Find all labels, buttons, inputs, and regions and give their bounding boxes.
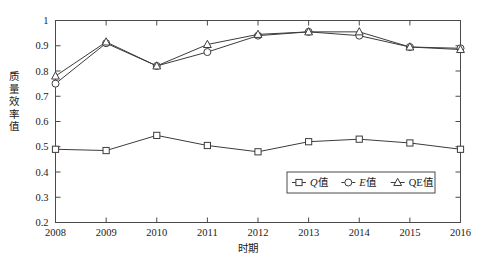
x-tick-label: 2015 [399, 227, 420, 238]
chart-legend[interactable]: Q值E值QE值 [287, 172, 435, 193]
y-tick-label: 0.8 [35, 66, 48, 77]
y-tick-label: 0.9 [35, 40, 48, 51]
data-point-marker [52, 146, 58, 152]
x-tick-label: 2016 [450, 227, 471, 238]
x-axis-title: 时期 [238, 242, 258, 254]
x-tick-label: 2013 [298, 227, 319, 238]
x-tick-label: 2009 [96, 227, 117, 238]
y-tick-label: 0.4 [35, 167, 49, 178]
data-point-marker [407, 140, 413, 146]
data-point-marker [103, 147, 109, 153]
y-axis-tick-labels: 0.20.30.40.50.60.70.80.91 [35, 15, 49, 228]
data-point-marker [345, 179, 352, 186]
x-tick-label: 2010 [146, 227, 167, 238]
legend-label: E值 [358, 176, 376, 188]
x-axis-tick-labels: 200820092010201120122013201420152016 [45, 227, 471, 238]
quality-efficiency-line-chart: 0.20.30.40.50.60.70.80.91 20082009201020… [0, 0, 495, 258]
y-tick-label: 0.3 [35, 192, 48, 203]
data-point-marker [154, 132, 160, 138]
data-point-marker [204, 49, 211, 56]
y-tick-label: 0.5 [35, 141, 48, 152]
legend-label: QE值 [409, 176, 434, 188]
y-tick-label: 0.6 [35, 116, 48, 127]
y-tick-label: 0.7 [35, 91, 48, 102]
data-point-marker [296, 179, 302, 185]
x-tick-label: 2012 [248, 227, 269, 238]
x-tick-label: 2011 [197, 227, 218, 238]
data-point-marker [52, 80, 59, 87]
data-point-marker [255, 149, 261, 155]
data-point-marker [356, 136, 362, 142]
x-tick-label: 2008 [45, 227, 66, 238]
data-point-marker [204, 142, 210, 148]
chart-canvas: 0.20.30.40.50.60.70.80.91 20082009201020… [0, 0, 495, 258]
y-axis-title-text: 质量效率值 [6, 70, 22, 133]
x-tick-label: 2014 [349, 227, 371, 238]
y-tick-label: 1 [43, 15, 48, 26]
legend-label: Q值 [310, 176, 329, 188]
data-point-marker [306, 139, 312, 145]
y-axis-title: 质量效率值 [6, 70, 22, 133]
data-point-marker [457, 146, 463, 152]
